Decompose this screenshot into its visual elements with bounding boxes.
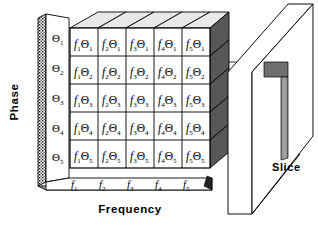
phase-panel-rim [38,14,46,186]
slice-corner-block [264,62,288,77]
cube-right-face [210,12,229,168]
diagram-svg: Θ1 Θ2 Θ3 Θ4 Θ5 f1 f2 f3 f4 f5 [0,0,318,227]
slice-vertical-strip [281,77,288,160]
frequency-axis-caption: Frequency [60,203,200,215]
phase-axis-caption: Phase [8,72,20,132]
data-cube: f1Θ1f2Θ1f3Θ1f4Θ1f5Θ1f1Θ2f2Θ2f3Θ2f4Θ2f5Θ2… [70,12,229,168]
figure-canvas: Θ1 Θ2 Θ3 Θ4 Θ5 f1 f2 f3 f4 f5 [0,0,318,227]
slice-caption: Slice [272,161,301,173]
slice-plane [228,4,313,214]
cube-top-face [70,12,229,28]
